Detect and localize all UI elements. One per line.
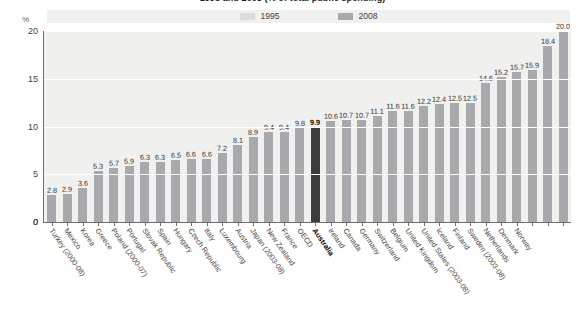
chart-title: 1995 and 2008 (% of total public spendin… [0, 0, 585, 3]
x-label-slot: Netherlands [478, 225, 494, 311]
bar-Hungary[interactable]: 6.5 [171, 160, 180, 222]
bar-Turkey (2000-08)[interactable]: 2.8 [47, 195, 56, 222]
chart-legend: 19952008 [47, 10, 570, 23]
bar-item-32[interactable]: 18.4 [543, 46, 552, 222]
bar-value-label: 2.9 [62, 186, 72, 193]
bar-Ireland[interactable]: 10.6 [326, 121, 335, 222]
legend-entry-1995[interactable]: 1995 [240, 12, 280, 21]
bar-Netherlands[interactable]: 14.6 [481, 83, 490, 222]
bar-Japan (2003-08)[interactable]: 8.9 [249, 137, 258, 222]
x-label-slot: Korea [75, 225, 91, 311]
bar-United States (2003-08)[interactable]: 12.2 [419, 106, 428, 223]
x-label-slot: France [277, 225, 293, 311]
bar-value-label: 3.6 [78, 179, 88, 186]
bar-United Kingdom[interactable]: 11.6 [404, 111, 413, 222]
bar-Canada[interactable]: 10.7 [342, 120, 351, 222]
gridline-10 [44, 127, 571, 128]
bar-Slovak Republic[interactable]: 6.3 [140, 162, 149, 222]
bar-Spain[interactable]: 6.3 [156, 162, 165, 222]
gridline-5 [44, 174, 571, 175]
x-label-slot: Luxembourg [215, 225, 231, 311]
plot-area: 2.82.93.65.35.75.96.36.36.56.66.67.28.18… [44, 31, 571, 222]
x-label-slot: Czech Republic [184, 225, 200, 311]
bar-value-label: 12.4 [432, 95, 446, 102]
legend-label-2008: 2008 [359, 12, 378, 21]
x-label-slot: Finland [447, 225, 463, 311]
x-axis-labels: Turkey (2000-08)MexicoKoreaGreecePoland … [44, 225, 571, 311]
bar-Mexico[interactable]: 2.9 [63, 194, 72, 222]
bar-Switzerland[interactable]: 11.1 [373, 116, 382, 222]
bar-Italy[interactable]: 6.6 [202, 159, 211, 222]
bar-Germany[interactable]: 10.7 [357, 120, 366, 222]
bar-value-label: 9.4 [279, 124, 289, 131]
x-label-slot: Greece [91, 225, 107, 311]
bar-Finland[interactable]: 12.5 [450, 103, 459, 222]
bar-value-label: 12.5 [463, 94, 477, 101]
gridline-20 [44, 31, 571, 32]
bar-value-label: 5.7 [109, 159, 119, 166]
bar-value-label: 10.6 [324, 112, 338, 119]
bar-value-label: 9.9 [310, 119, 320, 126]
bar-value-label: 8.1 [233, 136, 243, 143]
x-label-slot: New Zealand [261, 225, 277, 311]
bar-Austria[interactable]: 8.1 [233, 145, 242, 222]
x-label-slot: United States (2003-08) [416, 225, 432, 311]
bar-value-label: 6.6 [186, 151, 196, 158]
x-label-slot: Australia [308, 225, 324, 311]
bar-value-label: 15.2 [494, 68, 508, 75]
x-label-slot [540, 225, 556, 311]
y-tick-label-5: 5 [4, 169, 38, 179]
bar-Norway[interactable]: 15.7 [512, 72, 521, 222]
bar-Belgium[interactable]: 11.6 [388, 111, 397, 222]
x-label-slot [556, 225, 572, 311]
bar-value-label: 8.9 [248, 129, 258, 136]
bar-value-label: 20.0 [556, 23, 570, 30]
legend-swatch-2008 [338, 13, 353, 20]
bar-Denmark[interactable]: 15.2 [497, 77, 506, 222]
x-label-slot: Denmark [494, 225, 510, 311]
bar-value-label: 2.8 [47, 187, 57, 194]
bar-New Zealand[interactable]: 9.4 [264, 132, 273, 222]
bar-value-label: 6.5 [171, 152, 181, 159]
bar-value-label: 11.6 [401, 103, 415, 110]
x-label-slot: Japan (2003-08) [246, 225, 262, 311]
x-label-slot: Mexico [60, 225, 76, 311]
x-label-slot: Sweden (2003-08) [463, 225, 479, 311]
y-tick-label-zero: 0 [4, 217, 38, 227]
legend-label-1995: 1995 [261, 12, 280, 21]
x-label-slot: Portugal [122, 225, 138, 311]
bar-value-label: 9.4 [264, 124, 274, 131]
x-label-slot: Slovak Republic [137, 225, 153, 311]
bar-Greece[interactable]: 5.3 [94, 171, 103, 222]
y-axis-labels: 051015200 [0, 0, 38, 311]
bar-Luxembourg[interactable]: 7.2 [218, 153, 227, 222]
x-label-slot: Switzerland [370, 225, 386, 311]
x-label-slot: OECD [292, 225, 308, 311]
bar-Korea[interactable]: 3.6 [78, 188, 87, 222]
y-tick-label-20: 20 [4, 26, 38, 36]
bar-value-label: 6.3 [140, 154, 150, 161]
x-label-slot: Austria [230, 225, 246, 311]
y-tick-label-10: 10 [4, 122, 38, 132]
x-label-slot: Ireland [323, 225, 339, 311]
bar-value-label: 5.9 [124, 157, 134, 164]
x-label-slot: Iceland [432, 225, 448, 311]
bar-value-label: 12.5 [448, 94, 462, 101]
y-tick-label-15: 15 [4, 74, 38, 84]
bar-value-label: 11.6 [386, 103, 400, 110]
bar-value-label: 11.1 [370, 108, 384, 115]
bar-value-label: 6.6 [202, 151, 212, 158]
bar-value-label: 5.3 [93, 163, 103, 170]
bar-France[interactable]: 9.4 [280, 132, 289, 222]
x-label-slot: Norway [509, 225, 525, 311]
legend-entry-2008[interactable]: 2008 [338, 12, 378, 21]
bar-Iceland[interactable]: 12.4 [435, 104, 444, 222]
bar-value-label: 10.7 [339, 111, 353, 118]
bar-value-label: 15.9 [525, 62, 539, 69]
x-label-slot: Belgium [385, 225, 401, 311]
bar-value-label: 6.3 [155, 154, 165, 161]
bar-item-31[interactable]: 15.9 [528, 70, 537, 222]
bar-Poland (2000-07)[interactable]: 5.7 [109, 168, 118, 222]
bar-Czech Republic[interactable]: 6.6 [187, 159, 196, 222]
bar-Sweden (2003-08)[interactable]: 12.5 [466, 103, 475, 222]
